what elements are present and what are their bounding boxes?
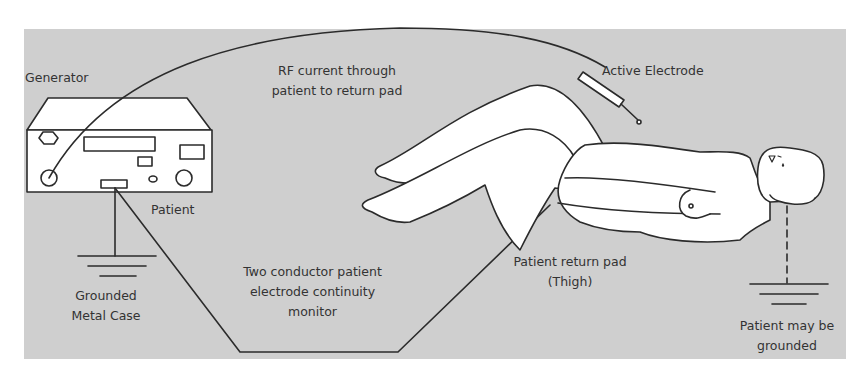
patient-ground-symbol-icon	[750, 284, 828, 304]
patient-figure	[362, 85, 824, 250]
label-monitor-line1: Two conductor patient	[225, 262, 400, 282]
label-patient-grounded-line1: Patient may be	[728, 316, 846, 336]
label-return-pad-line1: Patient return pad	[495, 252, 645, 272]
label-return-pad: Patient return pad (Thigh)	[495, 252, 645, 292]
generator-unit	[27, 98, 212, 192]
label-patient-may-be-grounded: Patient may be grounded	[728, 316, 846, 356]
label-grounded-metal-case: Grounded Metal Case	[56, 286, 156, 326]
patient-return-jack-icon	[101, 180, 127, 188]
label-generator: Generator	[25, 68, 88, 88]
case-ground-symbol-icon	[78, 256, 156, 276]
label-return-pad-line2: (Thigh)	[495, 272, 645, 292]
label-patient: Patient	[151, 200, 195, 220]
label-monitor-line2: electrode continuity	[225, 282, 400, 302]
label-rf-current-line2: patient to return pad	[262, 81, 412, 101]
label-continuity-monitor: Two conductor patient electrode continui…	[225, 262, 400, 322]
label-rf-current: RF current through patient to return pad	[262, 61, 412, 101]
label-active-electrode: Active Electrode	[602, 61, 704, 81]
label-grounded-case-line1: Grounded	[56, 286, 156, 306]
label-patient-grounded-line2: grounded	[728, 336, 846, 356]
label-rf-current-line1: RF current through	[262, 61, 412, 81]
label-monitor-line3: monitor	[225, 302, 400, 322]
label-grounded-case-line2: Metal Case	[56, 306, 156, 326]
